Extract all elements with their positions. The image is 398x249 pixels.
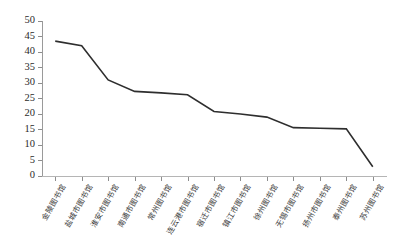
line-chart: 05101520253035404550 金陵图书馆盐城市图书馆淮安市图书馆南通… xyxy=(0,0,398,249)
series-plot xyxy=(0,0,398,249)
series-line xyxy=(55,41,373,167)
